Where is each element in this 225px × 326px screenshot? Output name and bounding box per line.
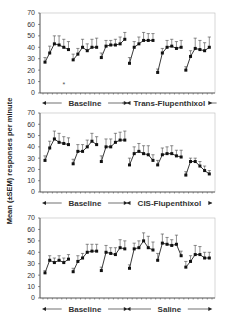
data-point [100,56,103,59]
data-point [105,251,108,254]
data-point [203,257,206,260]
data-point [95,46,98,49]
y-tick-label: 40 [27,249,35,256]
data-series-session-1 [43,131,70,162]
data-point [44,159,47,162]
y-tick-label: 40 [27,143,35,150]
arrow-left-icon [42,307,46,311]
phase-label-text: CIS-Flupenthixol [138,199,202,208]
data-point [194,253,197,256]
data-series-session-1 [43,255,70,275]
y-tick-label: 40 [27,44,35,51]
data-point [208,172,211,175]
data-point [198,253,201,256]
data-point [208,46,211,49]
data-series-session-6 [184,158,211,176]
arrow-right-icon [208,307,212,311]
data-point [76,53,79,56]
arrow-right-icon [208,201,212,205]
data-point [95,250,98,253]
data-point [180,46,183,49]
data-point [72,162,75,165]
data-point [62,46,65,49]
data-series-session-2 [72,38,99,61]
data-point [133,247,136,250]
y-tick-label: 60 [27,121,35,128]
data-point [76,260,79,263]
data-point [119,139,122,142]
data-point [194,160,197,163]
data-point [48,146,51,149]
data-point [156,163,159,166]
data-point [137,246,140,249]
data-series-session-5 [156,146,183,167]
data-point [142,239,145,242]
data-point [203,49,206,52]
y-tick-label: 30 [27,55,35,62]
phase-label-2: Trans-Flupenthixol [122,99,216,108]
data-series-session-5 [156,39,183,74]
data-point [184,174,187,177]
data-point [119,246,122,249]
data-point [72,58,75,61]
data-point [72,270,75,273]
significance-marker: * [62,81,65,88]
y-tick-label: 70 [27,9,35,16]
data-point [53,137,56,140]
y-tick-label: 0 [31,294,35,301]
y-tick-label: 30 [27,260,35,267]
data-point [161,52,164,55]
data-series-session-6 [184,37,211,72]
data-point [147,246,150,249]
phase-label-1: Baseline [42,305,128,314]
y-tick-label: 0 [31,89,35,96]
data-point [161,242,164,245]
data-point [128,163,131,166]
data-point [128,62,131,65]
y-tick-label: 20 [27,67,35,74]
data-point [166,243,169,246]
y-tick-label: 60 [27,226,35,233]
data-point [109,145,112,148]
phase-label-2: Saline [127,305,213,314]
data-point [151,249,154,252]
data-point [48,52,51,55]
data-point [133,152,136,155]
data-point [44,61,47,64]
data-point [175,154,178,157]
data-point [81,257,84,260]
chart-panel-2: 010203040506070BaselineCIS-Flupenthixol [27,109,215,208]
y-tick-label: 70 [27,109,35,116]
phase-label-text: Baseline [68,305,101,314]
data-point [189,160,192,163]
data-point [156,71,159,74]
data-point [105,45,108,48]
data-point [142,39,145,42]
data-point [114,141,117,144]
data-point [105,145,108,148]
data-point [156,259,159,262]
data-point [184,69,187,72]
data-point [95,143,98,146]
data-point [170,152,173,155]
data-point [109,252,112,255]
plot-frame [40,218,215,298]
data-point [142,152,145,155]
y-tick-label: 70 [27,214,35,221]
y-tick-label: 0 [31,188,35,195]
data-point [170,45,173,48]
data-point [180,156,183,159]
y-tick-label: 10 [27,283,35,290]
arrow-left-icon [127,101,131,105]
data-point [86,49,89,52]
y-tick-label: 50 [27,32,35,39]
data-series-session-6 [184,245,211,268]
phase-label-1: Baseline [42,199,128,208]
data-point [170,244,173,247]
data-point [166,152,169,155]
data-point [48,259,51,262]
data-point [67,258,70,261]
data-point [208,257,211,260]
data-series-session-4 [128,32,155,64]
data-point [137,150,140,153]
